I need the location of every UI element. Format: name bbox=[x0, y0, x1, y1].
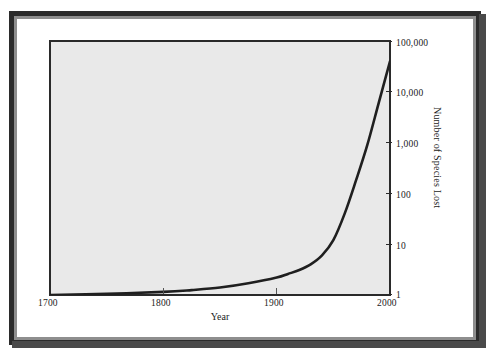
ytick-label-1000: 1,000 bbox=[396, 139, 418, 149]
ytick-label-100000: 100,000 bbox=[396, 38, 428, 48]
ytick-mark-100 bbox=[386, 193, 392, 194]
xtick-label-2000: 2000 bbox=[377, 298, 397, 308]
ytick-label-100: 100 bbox=[396, 190, 411, 200]
xtick-mark-1800 bbox=[163, 288, 164, 294]
xtick-mark-1900 bbox=[276, 288, 277, 294]
xtick-label-1900: 1900 bbox=[264, 298, 284, 308]
figure-container: 100,000 10,000 1,000 100 10 1 1700 1800 … bbox=[0, 0, 493, 362]
ytick-mark-10 bbox=[386, 244, 392, 245]
ytick-mark-10000 bbox=[386, 91, 392, 92]
curve-path bbox=[50, 61, 390, 295]
ytick-mark-1000 bbox=[386, 142, 392, 143]
ytick-label-10: 10 bbox=[396, 241, 406, 251]
series-line-species-lost bbox=[50, 41, 390, 295]
y-axis-title: Number of Species Lost bbox=[432, 107, 443, 237]
figure-frame-shadow-right bbox=[479, 14, 486, 348]
ytick-mark-1 bbox=[386, 294, 392, 295]
x-axis-title: Year bbox=[0, 311, 440, 322]
xtick-label-1800: 1800 bbox=[151, 298, 171, 308]
ytick-mark-100000 bbox=[386, 41, 392, 42]
ytick-label-10000: 10,000 bbox=[396, 88, 423, 98]
figure-frame-shadow-bottom bbox=[12, 341, 486, 348]
xtick-label-1700: 1700 bbox=[38, 298, 58, 308]
